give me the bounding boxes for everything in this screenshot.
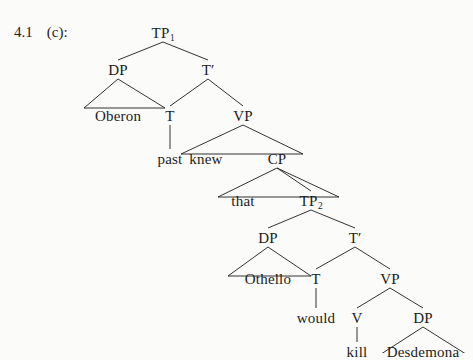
tree-node-label: CP: [268, 151, 287, 167]
tree-node-label: V: [351, 310, 362, 326]
tree-node-that: that: [231, 194, 254, 209]
tree-node-label: knew: [189, 151, 222, 167]
tree-node-label: VP: [380, 271, 400, 287]
example-label: 4.1(c):: [14, 25, 68, 40]
tree-node-would: would: [297, 311, 336, 326]
tree-node-prime: ′: [211, 62, 214, 78]
tree-node-tp1: TP1: [152, 26, 175, 41]
tree-node-v: V: [351, 311, 362, 326]
tree-node-dp1: DP: [108, 63, 128, 78]
tree-node-prime: ′: [358, 230, 361, 246]
tree-node-label: that: [231, 193, 254, 209]
tree-node-kill: kill: [347, 345, 368, 360]
tree-node-dp3: DP: [413, 311, 433, 326]
tree-node-label: T: [202, 62, 211, 78]
tree-node-label: Oberon: [95, 108, 141, 124]
tree-node-tbar2: T′: [349, 231, 362, 246]
tree-node-label: VP: [233, 108, 253, 124]
tree-node-subscript: 2: [318, 201, 323, 211]
tree-node-label: T: [349, 230, 358, 246]
tree-node-past: past: [158, 152, 183, 167]
tree-node-label: DP: [258, 230, 278, 246]
tree-node-label: past: [158, 151, 183, 167]
tree-node-tbar1: T′: [202, 63, 215, 78]
tree-node-label: DP: [108, 62, 128, 78]
tree-node-subscript: 1: [170, 33, 175, 43]
tree-node-label: Othello: [245, 271, 291, 287]
tree-node-label: Desdemona: [387, 344, 460, 360]
example-letter: (c):: [47, 24, 68, 40]
tree-node-label: TP: [152, 25, 170, 41]
tree-node-vp2: VP: [380, 272, 400, 287]
tree-node-vp1: VP: [233, 109, 253, 124]
tree-node-label: DP: [413, 310, 433, 326]
tree-node-label: kill: [347, 344, 368, 360]
tree-node-label: T: [165, 108, 174, 124]
tree-node-label: TP: [300, 193, 318, 209]
tree-node-t1: T: [165, 109, 174, 124]
tree-node-knew: knew: [189, 152, 222, 167]
tree-node-desdemona: Desdemona: [387, 345, 460, 360]
tree-node-tp2: TP2: [300, 194, 323, 209]
tree-node-oberon: Oberon: [95, 109, 141, 124]
tree-node-cp: CP: [268, 152, 287, 167]
tree-node-t2: T: [311, 272, 320, 287]
tree-node-label: would: [297, 310, 336, 326]
example-number: 4.1: [14, 24, 33, 40]
tree-node-othello: Othello: [245, 272, 291, 287]
tree-node-dp2: DP: [258, 231, 278, 246]
tree-node-label: T: [311, 271, 320, 287]
